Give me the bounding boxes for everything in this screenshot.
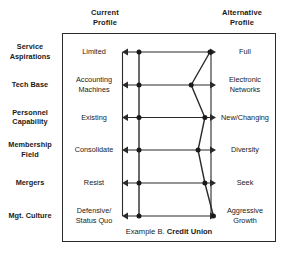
- column-header-current-profile: Current Profile: [66, 8, 144, 27]
- current-profile-value-4: Resist: [66, 178, 122, 188]
- row-label-5-line1: Mgt. Culture: [0, 211, 60, 220]
- current-profile-value-1-line2: Machines: [66, 85, 122, 95]
- row-label-3-line1: Membership: [0, 140, 60, 149]
- row-label-5: Mgt. Culture: [0, 211, 60, 220]
- row-label-2-line1: Personnel: [0, 108, 60, 117]
- alternative-profile-value-4: Seek: [214, 178, 276, 188]
- current-profile-value-0: Limited: [66, 47, 122, 57]
- figure-container: Current Profile Alternative Profile Serv…: [0, 0, 291, 260]
- current-profile-value-1: AccountingMachines: [66, 75, 122, 94]
- row-label-3: MembershipField: [0, 140, 60, 159]
- alternative-profile-value-0-line1: Full: [214, 47, 276, 57]
- current-profile-value-5: Defensive/Status Quo: [66, 206, 122, 225]
- alternative-profile-value-5-line1: Aggressive: [214, 206, 276, 216]
- alternative-profile-value-3-line1: Diversity: [214, 145, 276, 155]
- current-profile-value-2-line1: Existing: [66, 113, 122, 123]
- column-header-current-profile-line2: Profile: [66, 18, 144, 28]
- alternative-profile-value-2-line1: New/Changing: [214, 113, 276, 123]
- current-profile-value-2: Existing: [66, 113, 122, 123]
- current-profile-value-4-line1: Resist: [66, 178, 122, 188]
- alternative-profile-value-4-line1: Seek: [214, 178, 276, 188]
- row-label-4-line1: Mergers: [0, 178, 60, 187]
- caption-subject: Credit Union: [167, 227, 213, 236]
- row-label-3-line2: Field: [0, 150, 60, 159]
- row-label-2-line2: Capability: [0, 117, 60, 126]
- current-profile-value-3-line1: Consolidate: [66, 145, 122, 155]
- column-header-alternative-profile-line2: Profile: [203, 18, 281, 28]
- column-header-current-profile-line1: Current: [66, 8, 144, 18]
- alternative-profile-value-1-line2: Networks: [214, 85, 276, 95]
- figure-caption: Example B. Credit Union: [62, 227, 276, 237]
- row-label-0-line2: Aspirations: [0, 52, 60, 61]
- current-profile-value-1-line1: Accounting: [66, 75, 122, 85]
- current-profile-value-0-line1: Limited: [66, 47, 122, 57]
- current-profile-value-5-line1: Defensive/: [66, 206, 122, 216]
- alternative-profile-value-3: Diversity: [214, 145, 276, 155]
- row-label-0-line1: Service: [0, 42, 60, 51]
- column-header-alternative-profile: Alternative Profile: [203, 8, 281, 27]
- current-profile-value-5-line2: Status Quo: [66, 216, 122, 226]
- row-label-2: PersonnelCapability: [0, 108, 60, 127]
- alternative-profile-value-2: New/Changing: [214, 113, 276, 123]
- row-label-4: Mergers: [0, 178, 60, 187]
- row-label-0: ServiceAspirations: [0, 42, 60, 61]
- caption-prefix: Example B.: [126, 227, 165, 236]
- alternative-profile-value-1: ElectronicNetworks: [214, 75, 276, 94]
- current-profile-value-3: Consolidate: [66, 145, 122, 155]
- alternative-profile-value-5: AggressiveGrowth: [214, 206, 276, 225]
- row-label-1: Tech Base: [0, 80, 60, 89]
- row-label-1-line1: Tech Base: [0, 80, 60, 89]
- alternative-profile-value-1-line1: Electronic: [214, 75, 276, 85]
- column-header-alternative-profile-line1: Alternative: [203, 8, 281, 18]
- alternative-profile-value-5-line2: Growth: [214, 216, 276, 226]
- alternative-profile-value-0: Full: [214, 47, 276, 57]
